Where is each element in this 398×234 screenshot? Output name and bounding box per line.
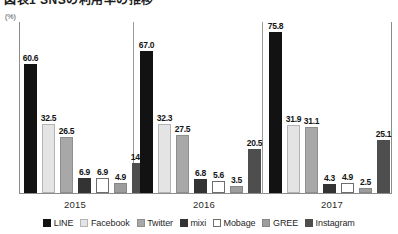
bar-rect <box>176 135 189 193</box>
bar-value-label: 3.5 <box>231 175 242 185</box>
bar-rect <box>140 51 153 193</box>
bar-mobage-2017[interactable]: 4.9 <box>341 170 354 193</box>
bar-value-label: 5.6 <box>213 170 224 180</box>
bar-value-label: 32.5 <box>41 113 57 123</box>
x-tick-label-2016: 2016 <box>179 199 229 210</box>
bar-value-label: 6.9 <box>79 167 90 177</box>
bar-facebook-2017[interactable]: 31.9 <box>287 112 300 193</box>
legend-item-mixi[interactable]: mixi <box>180 218 206 228</box>
bar-value-label: 6.9 <box>97 167 108 177</box>
bar-twitter-2015[interactable]: 26.5 <box>60 124 73 193</box>
bar-rect <box>212 181 225 193</box>
bar-value-label: 4.9 <box>115 172 126 182</box>
legend-item-gree[interactable]: GREE <box>262 218 298 228</box>
legend-item-mobage[interactable]: Mobage <box>213 218 255 228</box>
bar-rect <box>194 179 207 193</box>
bar-instagram-2017[interactable]: 25.1 <box>377 127 390 193</box>
chart-title-strip: 図表1 SNSの利用率の推移 <box>0 0 398 9</box>
bar-mobage-2016[interactable]: 5.6 <box>212 168 225 193</box>
bar-rect <box>248 149 261 193</box>
bar-value-label: 31.9 <box>286 114 302 124</box>
bar-value-label: 75.8 <box>268 21 284 31</box>
bar-rect <box>230 186 243 193</box>
legend-swatch-icon <box>305 219 313 227</box>
bar-rect <box>78 178 91 193</box>
bar-rect <box>287 125 300 193</box>
legend-label: LINE <box>54 218 74 228</box>
legend-item-line[interactable]: LINE <box>43 218 73 228</box>
bar-group-2017: 75.831.931.14.34.92.525.1 <box>263 22 391 194</box>
bar-rect <box>359 188 372 193</box>
bar-rect <box>269 32 282 193</box>
bar-line-2015[interactable]: 60.6 <box>24 51 37 193</box>
legend-swatch-icon <box>180 219 188 227</box>
bar-value-label: 67.0 <box>139 40 155 50</box>
bar-value-label: 6.8 <box>195 168 206 178</box>
legend-label: Facebook <box>91 218 130 228</box>
bar-mixi-2016[interactable]: 6.8 <box>194 166 207 193</box>
legend-item-twitter[interactable]: Twitter <box>137 218 173 228</box>
bar-value-label: 60.6 <box>23 53 39 63</box>
bar-mobage-2015[interactable]: 6.9 <box>96 165 109 193</box>
legend-swatch-icon <box>262 219 270 227</box>
bar-group-2016: 67.032.327.56.85.63.520.5 <box>134 22 262 194</box>
legend-label: GREE <box>273 218 298 228</box>
legend-swatch-icon <box>43 219 51 227</box>
bar-instagram-2016[interactable]: 20.5 <box>248 136 261 193</box>
chart-legend: LINEFacebookTwittermixiMobageGREEInstagr… <box>0 215 398 231</box>
bar-gree-2017[interactable]: 2.5 <box>359 175 372 193</box>
legend-item-instagram[interactable]: Instagram <box>305 218 355 228</box>
legend-label: Mobage <box>224 218 256 228</box>
x-tick-label-2017: 2017 <box>307 199 357 210</box>
bar-rect <box>305 127 318 193</box>
bar-value-label: 32.3 <box>157 113 173 123</box>
chart-plot-area: 60.632.526.56.96.94.914.3 67.032.327.56.… <box>0 22 398 196</box>
bar-rect <box>24 64 37 193</box>
bar-rect <box>114 183 127 193</box>
legend-label: Twitter <box>147 218 173 228</box>
bar-value-label: 27.5 <box>175 124 191 134</box>
bar-line-2017[interactable]: 75.8 <box>269 19 282 193</box>
bar-rect <box>323 184 336 193</box>
bar-rect <box>96 178 109 193</box>
legend-label: mixi <box>190 218 206 228</box>
bar-mixi-2017[interactable]: 4.3 <box>323 171 336 193</box>
bar-rect <box>377 140 390 193</box>
bar-value-label: 4.9 <box>342 172 353 182</box>
bar-gree-2016[interactable]: 3.5 <box>230 173 243 193</box>
plot-right-border <box>391 22 392 194</box>
legend-label: Instagram <box>316 218 355 228</box>
bar-value-label: 20.5 <box>247 138 263 148</box>
bar-twitter-2017[interactable]: 31.1 <box>305 114 318 193</box>
bar-facebook-2016[interactable]: 32.3 <box>158 111 171 193</box>
legend-swatch-icon <box>80 219 88 227</box>
bar-twitter-2016[interactable]: 27.5 <box>176 122 189 193</box>
bar-facebook-2015[interactable]: 32.5 <box>42 111 55 193</box>
legend-swatch-icon <box>213 219 221 227</box>
bar-rect <box>341 183 354 193</box>
bar-rect <box>60 137 73 193</box>
x-tick-label-2015: 2015 <box>50 199 100 210</box>
legend-swatch-icon <box>137 219 145 227</box>
bar-value-label: 26.5 <box>59 126 75 136</box>
legend-item-facebook[interactable]: Facebook <box>80 218 129 228</box>
bar-value-label: 31.1 <box>304 116 320 126</box>
bar-gree-2015[interactable]: 4.9 <box>114 170 127 193</box>
bar-mixi-2015[interactable]: 6.9 <box>78 165 91 193</box>
bar-line-2016[interactable]: 67.0 <box>140 38 153 193</box>
bar-value-label: 25.1 <box>376 129 392 139</box>
page-title: 図表1 SNSの利用率の推移 <box>4 0 154 7</box>
bar-rect <box>158 124 171 193</box>
bar-rect <box>42 124 55 193</box>
y-axis-unit-label: (%) <box>5 13 16 20</box>
bar-group-2015: 60.632.526.56.96.94.914.3 <box>20 22 133 194</box>
bar-value-label: 4.3 <box>324 173 335 183</box>
bar-value-label: 2.5 <box>360 177 371 187</box>
